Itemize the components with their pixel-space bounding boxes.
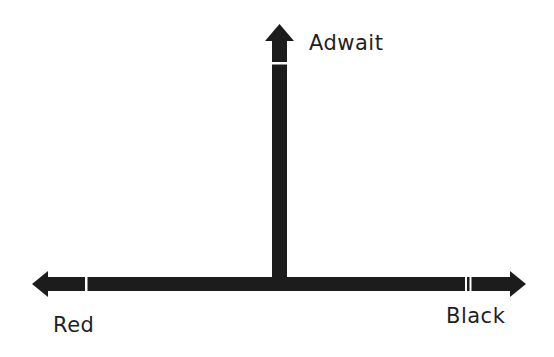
vertical-axis-label: Adwait [309,31,383,55]
left-axis-label: Red [53,313,94,337]
right-axis-label: Black [446,304,505,328]
left-arrowhead-icon [32,271,48,297]
vertical-axis-shaft [272,38,287,284]
horizontal-axis-tick-left [85,275,88,293]
up-arrowhead-icon [265,24,294,41]
horizontal-axis-tick-right-1 [465,275,467,293]
vertical-axis-tick [270,62,289,65]
right-arrowhead-icon [510,271,526,297]
horizontal-axis-tick-right-2 [470,275,472,293]
horizontal-axis-shaft [45,277,512,291]
